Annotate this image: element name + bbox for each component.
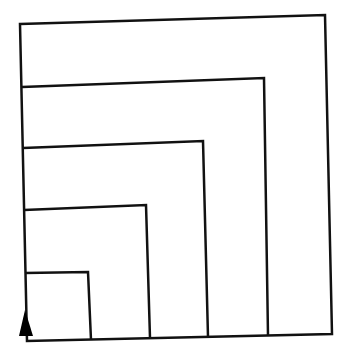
square-3 (23, 141, 208, 337)
arrow-up-icon (19, 310, 33, 336)
square-5 (25, 272, 91, 340)
outer-square (20, 15, 332, 341)
nested-squares-diagram (0, 0, 346, 360)
